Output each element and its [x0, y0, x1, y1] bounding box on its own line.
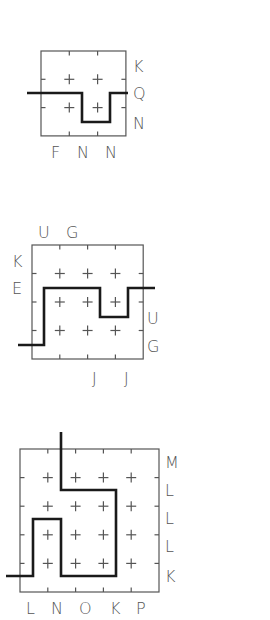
clue-label-right: L: [165, 481, 174, 500]
plus-mark: [98, 501, 108, 511]
clue-label-bottom: F: [51, 143, 60, 162]
plus-mark: [71, 501, 81, 511]
plus-mark: [71, 558, 81, 568]
solution-path: [18, 288, 155, 345]
clue-label-bottom: J: [92, 369, 97, 388]
clue-label-left: E: [12, 279, 22, 298]
plus-mark: [64, 103, 74, 113]
clue-label-left: K: [12, 252, 23, 271]
plus-mark: [43, 530, 53, 540]
plus-mark: [126, 473, 136, 483]
clue-label-right: K: [133, 57, 144, 76]
plus-mark: [126, 558, 136, 568]
puzzle-2: UGKEUGJJ: [12, 223, 159, 388]
puzzle-sheet: KQNFNN UGKEUGJJ MLLLKLNOKP: [0, 0, 270, 620]
clue-label-bottom: L: [26, 599, 35, 618]
plus-mark: [55, 326, 65, 336]
plus-mark: [55, 269, 65, 279]
plus-mark: [98, 558, 108, 568]
plus-mark: [71, 530, 81, 540]
plus-mark: [93, 74, 103, 84]
clue-label-right: L: [165, 537, 174, 556]
plus-mark: [55, 297, 65, 307]
clue-label-right: U: [147, 309, 159, 328]
plus-mark: [98, 473, 108, 483]
plus-mark: [83, 326, 93, 336]
clue-label-right: K: [165, 567, 176, 586]
clue-label-bottom: O: [79, 599, 92, 618]
clue-label-bottom: N: [77, 143, 89, 162]
plus-mark: [83, 269, 93, 279]
clue-label-right: L: [165, 509, 174, 528]
plus-mark: [110, 269, 120, 279]
puzzle-1: KQNFNN: [27, 51, 146, 162]
clue-label-bottom: K: [110, 599, 121, 618]
plus-mark: [71, 473, 81, 483]
clue-label-bottom: N: [105, 143, 117, 162]
plus-mark: [126, 501, 136, 511]
clue-label-right: G: [147, 337, 159, 356]
plus-mark: [110, 326, 120, 336]
plus-mark: [98, 530, 108, 540]
clue-label-top: U: [38, 223, 50, 242]
clue-label-bottom: J: [124, 369, 129, 388]
clue-label-top: G: [66, 223, 78, 242]
plus-mark: [64, 74, 74, 84]
plus-mark: [83, 297, 93, 307]
plus-mark: [110, 297, 120, 307]
clue-label-bottom: P: [136, 599, 146, 618]
grid-frame: [20, 449, 159, 592]
plus-mark: [43, 558, 53, 568]
solution-path: [6, 432, 116, 576]
puzzle-3: MLLLKLNOKP: [6, 432, 179, 618]
clue-label-right: Q: [133, 84, 146, 103]
plus-mark: [43, 473, 53, 483]
plus-mark: [43, 501, 53, 511]
clue-label-right: M: [165, 453, 179, 472]
clue-label-right: N: [133, 114, 145, 133]
plus-mark: [126, 530, 136, 540]
clue-label-bottom: N: [51, 599, 63, 618]
plus-mark: [93, 103, 103, 113]
